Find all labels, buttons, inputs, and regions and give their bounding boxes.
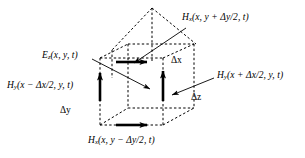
depth-edge-top-left xyxy=(100,44,128,58)
label-delta-y: Δy xyxy=(60,106,71,116)
prism-edge-apex-left xyxy=(112,8,152,50)
figure-canvas: Hx(x, y + Δy/2, t) Ez(x, y, t) Hy(x − Δx… xyxy=(0,0,305,158)
label-delta-x-text: Δx xyxy=(171,55,182,65)
back-face-edges xyxy=(128,44,194,108)
label-ez-center-args: (x, y, t) xyxy=(51,50,78,60)
label-delta-z-text: Δz xyxy=(191,92,201,102)
label-hy-right-args: (x + Δx/2, y, t) xyxy=(227,70,283,80)
label-hy-left-args: (x − Δx/2, y, t) xyxy=(17,80,73,90)
label-hy-right: Hy(x + Δx/2, y, t) xyxy=(217,71,283,81)
label-delta-x: Δx xyxy=(171,56,182,66)
label-hx-bottom-text: H xyxy=(88,135,95,145)
depth-edge-bottom-left xyxy=(100,108,128,125)
label-hy-left-text: H xyxy=(7,80,14,90)
label-hx-top-text: H xyxy=(182,12,189,22)
label-delta-y-text: Δy xyxy=(60,105,71,115)
label-hy-left: Hy(x − Δx/2, y, t) xyxy=(7,81,73,91)
field-arrows xyxy=(100,62,163,125)
label-ez-center: Ez(x, y, t) xyxy=(42,51,78,61)
label-delta-z: Δz xyxy=(191,93,201,103)
label-hx-top: Hx(x, y + Δy/2, t) xyxy=(182,13,249,23)
label-hx-top-args: (x, y + Δy/2, t) xyxy=(192,12,249,22)
cell-wireframe xyxy=(100,8,196,125)
label-hx-bottom-args: (x, y − Δy/2, t) xyxy=(98,135,155,145)
label-hy-right-text: H xyxy=(217,70,224,80)
label-hx-bottom: Hx(x, y − Δy/2, t) xyxy=(88,136,155,146)
depth-edge-bottom-right xyxy=(163,108,194,125)
leader-lines xyxy=(92,28,214,95)
